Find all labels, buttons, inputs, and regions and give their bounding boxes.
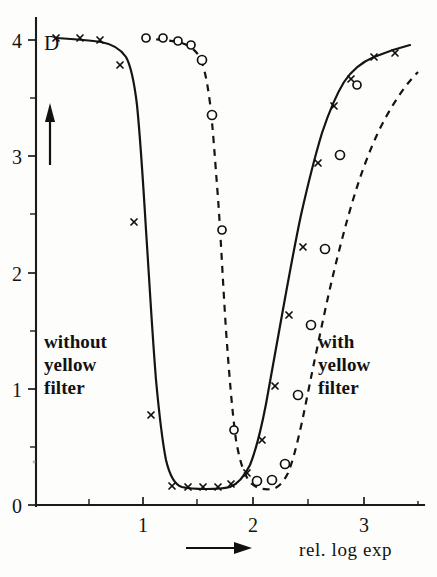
x-tick-label-1: 1	[138, 514, 148, 536]
annotation-right-line3: filter	[318, 377, 359, 398]
data-point-marker	[286, 312, 292, 318]
data-point-marker	[336, 151, 345, 160]
data-point-marker	[348, 76, 354, 82]
data-point-marker	[131, 219, 137, 225]
data-point-marker	[281, 460, 290, 469]
data-point-marker	[148, 412, 154, 418]
data-point-marker	[198, 56, 207, 65]
y-axis-name: D	[44, 31, 59, 55]
annotation-right-line2: yellow	[318, 354, 370, 375]
y-tick-label-4: 4	[12, 30, 22, 52]
curve-without-yellow-filter	[56, 38, 410, 489]
y-axis-ticks	[28, 40, 36, 505]
y-tick-label-3: 3	[12, 146, 22, 168]
data-point-marker	[169, 483, 175, 489]
data-point-marker	[353, 81, 361, 89]
data-point-marker	[174, 37, 182, 45]
data-point-marker	[187, 41, 195, 49]
data-point-marker	[268, 476, 277, 485]
data-point-marker	[307, 321, 316, 330]
annotation-with-yellow-filter: with yellow filter	[318, 331, 370, 398]
data-point-marker	[321, 245, 330, 254]
data-point-marker	[218, 226, 226, 234]
annotation-without-yellow-filter: without yellow filter	[44, 331, 108, 398]
annotation-left-line1: without	[44, 331, 108, 352]
data-point-marker	[117, 62, 123, 68]
x-tick-label-3: 3	[359, 514, 369, 536]
data-point-marker	[294, 391, 303, 400]
y-tick-label-2: 2	[12, 263, 22, 285]
data-point-marker	[392, 50, 398, 56]
y-tick-label-1: 1	[12, 379, 22, 401]
markers-with-yellow-filter	[142, 34, 361, 486]
annotation-left-line3: filter	[44, 377, 85, 398]
x-direction-arrow-icon	[186, 542, 252, 554]
axis-lines	[36, 18, 424, 506]
data-point-marker	[230, 426, 238, 434]
annotation-right-line1: with	[318, 331, 355, 352]
data-point-marker	[142, 34, 150, 42]
y-direction-arrow-icon	[45, 103, 55, 165]
reversal-curve-chart: 4 3 2 1 0 1 2 3 D rel. log	[0, 0, 437, 577]
annotation-left-line2: yellow	[44, 354, 96, 375]
x-tick-label-2: 2	[248, 514, 258, 536]
curve-with-yellow-filter	[143, 39, 418, 489]
scan-speck	[33, 461, 36, 464]
figure-container: 4 3 2 1 0 1 2 3 D rel. log	[0, 0, 437, 577]
y-tick-label-0: 0	[12, 495, 22, 517]
x-axis-ticks	[89, 497, 418, 505]
data-point-marker	[300, 244, 306, 250]
data-point-marker	[315, 160, 321, 166]
data-point-marker	[253, 477, 262, 486]
x-axis-caption: rel. log exp	[299, 539, 392, 560]
data-point-marker	[208, 111, 217, 120]
data-point-marker	[159, 34, 167, 42]
data-point-marker	[259, 437, 265, 443]
data-point-marker	[272, 383, 278, 389]
markers-without-yellow-filter	[53, 35, 398, 490]
